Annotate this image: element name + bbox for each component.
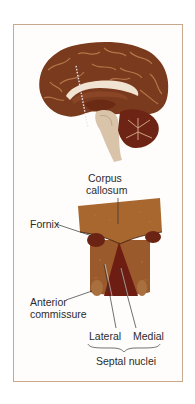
label-medial: Medial <box>133 330 164 342</box>
sagittal-brain <box>39 42 168 162</box>
label-corpus-callosum-1: Corpus <box>88 172 122 184</box>
label-anterior-commissure-1: Anterior <box>30 296 67 308</box>
label-corpus-callosum-2: callosum <box>86 184 127 196</box>
septal-section <box>56 198 162 352</box>
label-fornix: Fornix <box>30 218 59 230</box>
label-lateral: Lateral <box>89 330 121 342</box>
brain-diagram <box>0 0 195 404</box>
label-septal-nuclei: Septal nuclei <box>96 355 156 367</box>
label-anterior-commissure-2: commissure <box>30 308 87 320</box>
